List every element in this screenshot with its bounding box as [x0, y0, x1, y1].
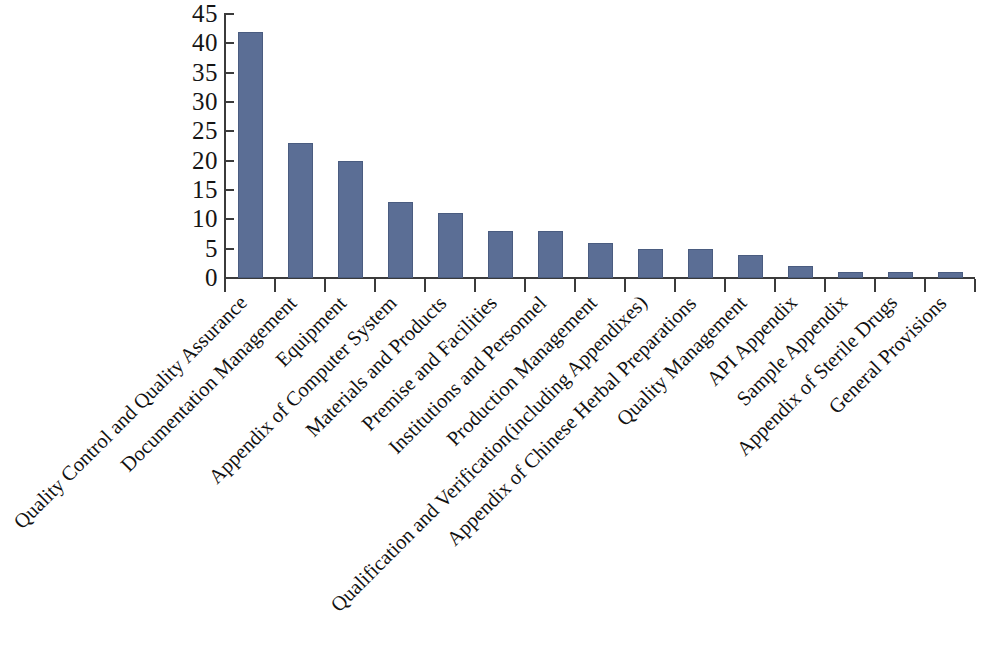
y-axis-tick-label: 40	[178, 30, 218, 55]
x-axis-tick	[224, 279, 226, 292]
bar	[688, 249, 713, 278]
x-axis-tick	[874, 279, 876, 292]
y-axis-tick-label: 20	[178, 148, 218, 173]
y-axis-tick	[225, 160, 234, 162]
x-axis-tick	[374, 279, 376, 292]
bar	[838, 272, 863, 278]
bar	[638, 249, 663, 278]
y-axis-tick	[225, 130, 234, 132]
bar-chart: 051015202530354045Quality Control and Qu…	[0, 0, 984, 659]
y-axis-tick	[225, 72, 234, 74]
bar	[888, 272, 913, 278]
y-axis-tick-label: 25	[178, 118, 218, 143]
x-axis-tick	[474, 279, 476, 292]
x-axis-tick	[324, 279, 326, 292]
bar	[288, 143, 313, 278]
bar	[388, 202, 413, 278]
bar	[488, 231, 513, 278]
y-axis-tick-label: 30	[178, 89, 218, 114]
bar	[738, 255, 763, 278]
y-axis-tick-label: 45	[178, 1, 218, 26]
x-axis-tick	[974, 279, 976, 292]
x-axis-tick	[624, 279, 626, 292]
y-axis-tick	[225, 189, 234, 191]
bar	[788, 266, 813, 278]
bar	[438, 213, 463, 278]
x-axis-tick	[574, 279, 576, 292]
y-axis-tick-label: 35	[178, 60, 218, 85]
y-axis-tick	[225, 101, 234, 103]
y-axis-tick-label: 15	[178, 177, 218, 202]
y-axis-tick	[225, 218, 234, 220]
x-axis-tick	[824, 279, 826, 292]
x-axis-tick	[774, 279, 776, 292]
x-axis-tick	[274, 279, 276, 292]
bar	[588, 243, 613, 278]
x-axis-tick	[674, 279, 676, 292]
y-axis-tick	[225, 42, 234, 44]
y-axis-tick	[225, 13, 234, 15]
y-axis-tick-label: 10	[178, 206, 218, 231]
y-axis-line	[224, 13, 226, 279]
y-axis-tick-label: 0	[178, 265, 218, 290]
x-axis-category-label: Quality Control and Quality Assurance	[10, 292, 251, 533]
x-axis-tick	[924, 279, 926, 292]
x-axis-tick	[524, 279, 526, 292]
bar	[938, 272, 963, 278]
y-axis-tick	[225, 248, 234, 250]
x-axis-tick	[724, 279, 726, 292]
y-axis-tick-label: 5	[178, 236, 218, 261]
bar	[538, 231, 563, 278]
bar	[238, 32, 263, 278]
bar	[338, 161, 363, 278]
x-axis-tick	[424, 279, 426, 292]
y-axis-tick	[225, 277, 234, 279]
